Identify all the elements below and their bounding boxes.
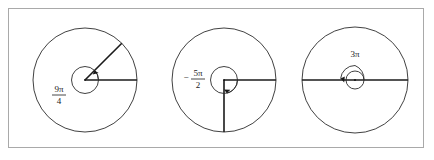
angle-label-1-denominator: 4 — [57, 96, 62, 106]
diagram-3pi: 3π — [302, 27, 408, 133]
angle-label-2-denominator: 2 — [196, 80, 201, 90]
angle-label-1: 9π 4 — [52, 84, 66, 106]
terminal-side-ray-1 — [85, 43, 122, 80]
angle-label-1-numerator: 9π — [54, 84, 64, 94]
figure-canvas: 9π 4 − 5π 2 — [0, 0, 434, 160]
angle-label-2-numerator: 5π — [193, 68, 203, 78]
angle-label-2-sign: − — [183, 72, 188, 82]
angle-label-3: 3π — [350, 49, 360, 59]
origin-dot-3 — [354, 79, 356, 81]
origin-dot-2 — [223, 79, 225, 81]
origin-dot-1 — [84, 79, 86, 81]
angle-diagrams-svg: 9π 4 − 5π 2 — [0, 0, 434, 160]
diagram-9pi-over-4: 9π 4 — [33, 28, 137, 132]
diagram-negative-5pi-over-2: − 5π 2 — [172, 28, 276, 132]
angle-label-2: − 5π 2 — [183, 68, 205, 90]
